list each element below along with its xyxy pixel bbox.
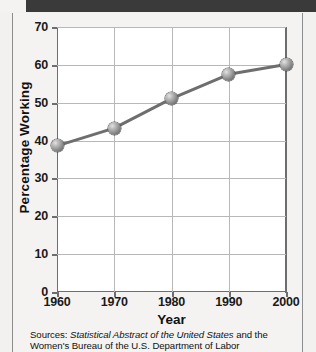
x-tick-label: 2000 xyxy=(258,296,314,309)
source-prefix: Sources: xyxy=(30,329,70,340)
x-tick-label: 1980 xyxy=(144,296,200,309)
line-chart: 010203040506070 19601970198019902000 Per… xyxy=(0,0,316,352)
gridline-vertical xyxy=(114,27,115,292)
y-tick-label: 10 xyxy=(0,248,48,260)
data-point-marker xyxy=(51,139,64,152)
x-axis-title: Year xyxy=(57,312,286,327)
data-point-marker xyxy=(108,122,121,135)
source-publication-title: Statistical Abstract of the United State… xyxy=(70,329,233,340)
x-tick-label: 1960 xyxy=(29,296,85,309)
x-tick-label: 1970 xyxy=(86,296,142,309)
x-tick-label: 1990 xyxy=(201,296,257,309)
data-point-marker xyxy=(280,58,293,71)
y-tick xyxy=(52,103,57,105)
y-tick xyxy=(52,65,57,67)
source-note: Sources: Statistical Abstract of the Uni… xyxy=(30,329,286,351)
y-tick xyxy=(52,254,57,256)
gridline-vertical xyxy=(229,27,230,292)
data-point-marker xyxy=(222,68,235,81)
gridline-vertical xyxy=(172,27,173,292)
y-tick xyxy=(52,27,57,29)
y-axis-title: Percentage Working xyxy=(17,68,32,228)
data-point-marker xyxy=(165,92,178,105)
y-tick xyxy=(52,216,57,218)
y-tick-label: 70 xyxy=(0,21,48,33)
y-tick xyxy=(52,178,57,180)
